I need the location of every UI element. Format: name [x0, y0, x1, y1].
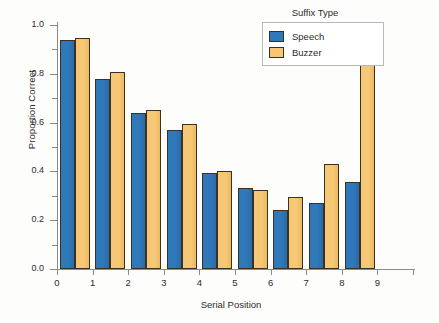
y-tick-label: 0.6: [18, 117, 44, 127]
x-tick: [164, 269, 165, 275]
legend-item-buzzer: Buzzer: [269, 44, 377, 60]
bar-buzzer-3: [146, 110, 161, 269]
y-tick-label: 0.4: [18, 165, 44, 175]
bar-buzzer-8: [324, 164, 339, 269]
y-tick-major: [50, 269, 57, 270]
x-tick-label: 2: [118, 277, 138, 288]
x-tick-label: 6: [261, 277, 281, 288]
x-tick: [128, 269, 129, 275]
bar-speech-3: [131, 113, 146, 269]
bar-speech-7: [273, 210, 288, 269]
legend-label-buzzer: Buzzer: [292, 47, 322, 58]
y-tick-label: 0.0: [18, 263, 44, 273]
x-tick-terminal: [413, 269, 414, 275]
bar-speech-8: [309, 203, 324, 269]
axis-origin-label: 0: [48, 277, 66, 288]
x-tick-label: 7: [296, 277, 316, 288]
bar-speech-9: [345, 182, 360, 269]
y-tick-label: 1.0: [18, 19, 44, 29]
bar-speech-5: [202, 173, 217, 269]
y-tick-major: [50, 220, 57, 221]
x-tick-label: 9: [367, 277, 387, 288]
y-tick-major: [50, 171, 57, 172]
legend-title: Suffix Type: [245, 7, 385, 18]
x-tick: [93, 269, 94, 275]
bar-buzzer-1: [75, 38, 90, 269]
bar-buzzer-5: [217, 171, 232, 269]
legend-item-speech: Speech: [269, 28, 377, 44]
legend-label-speech: Speech: [292, 31, 324, 42]
x-tick: [306, 269, 307, 275]
y-tick-major: [50, 123, 57, 124]
bar-chart-figure: Proportion Correct Serial Position 0.00.…: [0, 0, 439, 323]
bar-buzzer-6: [253, 190, 268, 269]
y-tick-major: [50, 25, 57, 26]
x-tick: [199, 269, 200, 275]
bar-buzzer-4: [182, 124, 197, 269]
x-tick: [235, 269, 236, 275]
y-tick-label: 0.2: [18, 214, 44, 224]
x-tick-label: 8: [332, 277, 352, 288]
y-tick-major: [50, 74, 57, 75]
x-tick: [342, 269, 343, 275]
x-axis-line: [57, 269, 415, 270]
legend: Speech Buzzer: [262, 22, 384, 66]
bar-buzzer-9: [360, 48, 375, 269]
x-tick: [377, 269, 378, 275]
x-tick: [57, 269, 58, 275]
x-tick-label: 3: [154, 277, 174, 288]
bar-speech-4: [167, 130, 182, 269]
bar-speech-6: [238, 188, 253, 269]
legend-swatch-buzzer-icon: [269, 47, 284, 58]
bar-buzzer-7: [288, 197, 303, 269]
x-axis-label: Serial Position: [56, 299, 406, 310]
x-tick-label: 1: [83, 277, 103, 288]
x-tick: [271, 269, 272, 275]
bar-buzzer-2: [110, 72, 125, 269]
x-tick-label: 4: [189, 277, 209, 288]
y-axis-label: Proportion Correct: [26, 35, 37, 185]
bar-speech-1: [60, 40, 75, 269]
legend-swatch-speech-icon: [269, 31, 284, 42]
bar-speech-2: [95, 79, 110, 269]
y-tick-label: 0.8: [18, 68, 44, 78]
x-tick-label: 5: [225, 277, 245, 288]
